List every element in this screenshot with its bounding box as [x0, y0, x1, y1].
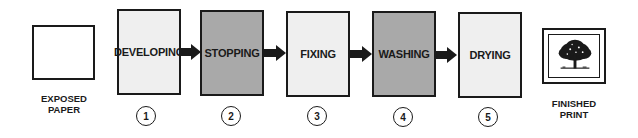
step-developing-label: DEVELOPING — [114, 46, 184, 58]
finished-print-mat — [548, 34, 600, 78]
step-number-2: 2 — [221, 106, 241, 126]
exposed-paper-sheet — [32, 25, 95, 80]
step-drying-box: DRYING — [458, 12, 522, 98]
step-number-2-text: 2 — [228, 111, 234, 122]
step-number-5-text: 5 — [485, 112, 491, 123]
step-number-1-text: 1 — [143, 111, 149, 122]
tree-icon — [551, 36, 599, 78]
step-number-4-text: 4 — [400, 112, 406, 123]
step-fixing-box: FIXING — [286, 11, 350, 97]
step-number-4: 4 — [393, 107, 413, 127]
arrow-right-icon — [179, 44, 201, 60]
finished-print-frame — [542, 28, 606, 84]
step-developing-box: DEVELOPING — [117, 9, 181, 95]
step-number-3-text: 3 — [314, 111, 320, 122]
step-number-1: 1 — [136, 106, 156, 126]
arrow-right-icon — [435, 47, 457, 63]
step-washing-label: WASHING — [378, 48, 429, 60]
step-number-5: 5 — [478, 107, 498, 127]
step-number-3: 3 — [307, 106, 327, 126]
exposed-paper-label-line2: PAPER — [22, 104, 106, 115]
arrow-right-icon — [264, 45, 286, 61]
arrow-right-icon — [350, 46, 372, 62]
step-fixing-label: FIXING — [300, 48, 335, 60]
exposed-paper-label: EXPOSED PAPER — [22, 93, 106, 115]
exposed-paper-label-line1: EXPOSED — [22, 93, 106, 104]
finished-print-label-line2: PRINT — [532, 109, 616, 120]
step-stopping-box: STOPPING — [200, 10, 264, 96]
step-drying-label: DRYING — [469, 49, 510, 61]
finished-print-label-line1: FINISHED — [532, 98, 616, 109]
finished-print-label: FINISHED PRINT — [532, 98, 616, 120]
step-washing-box: WASHING — [372, 11, 436, 97]
step-stopping-label: STOPPING — [204, 47, 259, 59]
